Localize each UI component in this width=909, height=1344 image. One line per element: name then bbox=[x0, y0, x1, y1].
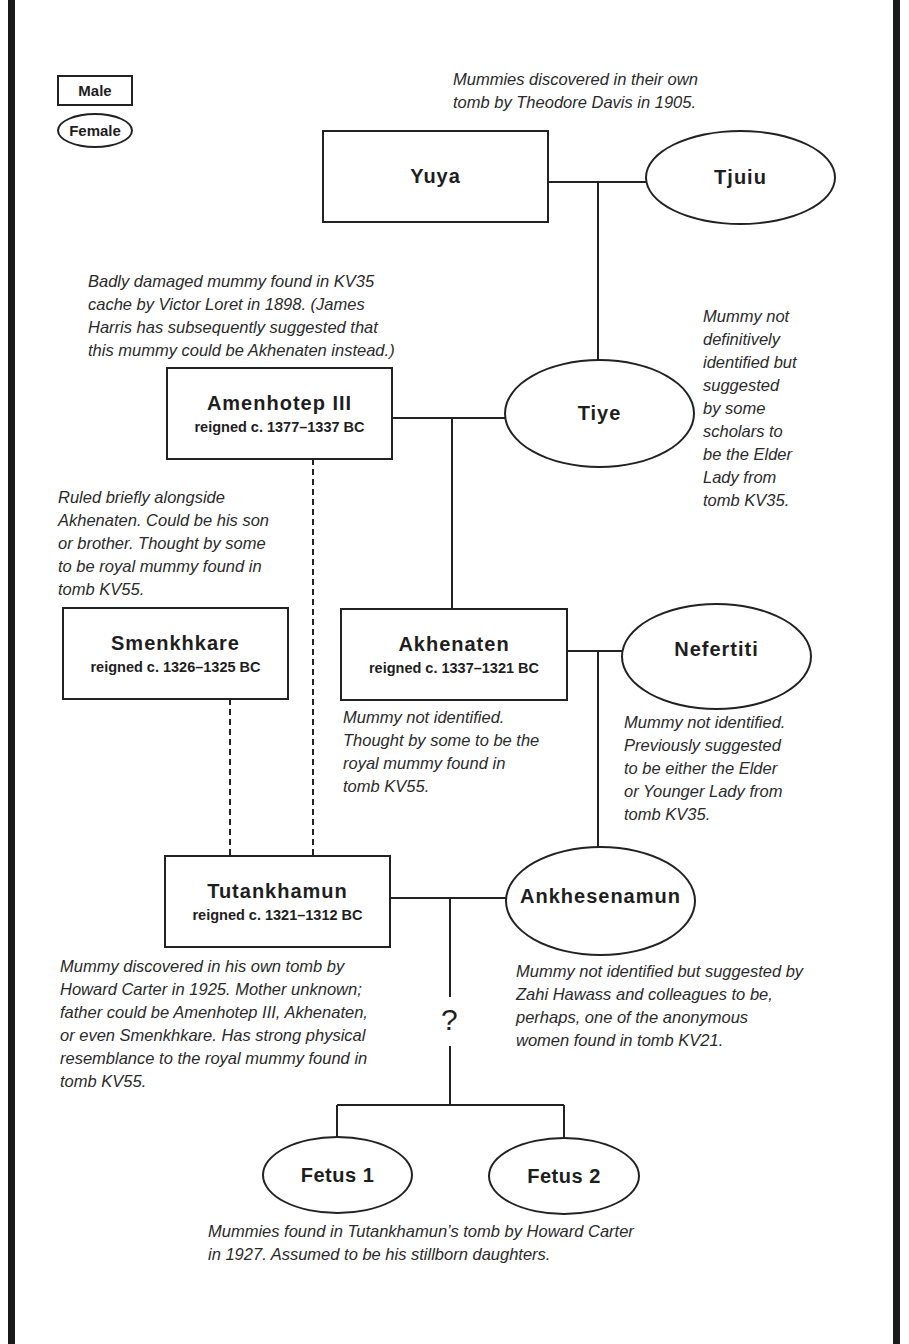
person-reign: reigned c. 1377–1337 BC bbox=[194, 419, 364, 435]
person-name: Tiye bbox=[578, 402, 622, 425]
person-akhenaten: Akhenaten reigned c. 1337–1321 BC bbox=[340, 608, 568, 701]
person-name: Tutankhamun bbox=[207, 880, 348, 903]
person-name: Amenhotep III bbox=[207, 392, 352, 415]
legend-female-label: Female bbox=[69, 122, 121, 139]
legend-male-box: Male bbox=[57, 75, 133, 106]
person-reign: reigned c. 1337–1321 BC bbox=[369, 660, 539, 676]
person-nefertiti: Nefertiti bbox=[621, 603, 812, 710]
person-smenkhkare: Smenkhkare reigned c. 1326–1325 BC bbox=[62, 607, 289, 700]
person-reign: reigned c. 1321–1312 BC bbox=[192, 907, 362, 923]
note-amenhotep-iii: Badly damaged mummy found in KV35 cache … bbox=[88, 270, 395, 362]
person-name: Tjuiu bbox=[714, 166, 767, 189]
person-tjuiu: Tjuiu bbox=[645, 130, 836, 225]
note-akhenaten: Mummy not identified. Thought by some to… bbox=[343, 706, 539, 798]
note-tutankhamun: Mummy discovered in his own tomb by Howa… bbox=[60, 955, 368, 1093]
person-tutankhamun: Tutankhamun reigned c. 1321–1312 BC bbox=[164, 855, 391, 948]
person-yuya: Yuya bbox=[322, 130, 549, 223]
note-smenkhkare: Ruled briefly alongside Akhenaten. Could… bbox=[58, 486, 269, 601]
person-ankhesenamun: Ankhesenamun bbox=[505, 846, 696, 956]
legend-female-ellipse: Female bbox=[57, 113, 133, 148]
uncertain-parentage-mark: ? bbox=[441, 1003, 458, 1037]
note-fetuses: Mummies found in Tutankhamun’s tomb by H… bbox=[208, 1220, 634, 1266]
person-name: Fetus 1 bbox=[301, 1164, 375, 1187]
note-yuya-tjuiu: Mummies discovered in their own tomb by … bbox=[453, 68, 698, 114]
person-name: Smenkhkare bbox=[111, 632, 240, 655]
legend-male-label: Male bbox=[78, 82, 111, 99]
person-tiye: Tiye bbox=[504, 359, 695, 468]
note-tiye: Mummy not definitively identified but su… bbox=[703, 305, 797, 512]
person-name: Fetus 2 bbox=[527, 1165, 601, 1188]
note-nefertiti: Mummy not identified. Previously suggest… bbox=[624, 711, 785, 826]
person-reign: reigned c. 1326–1325 BC bbox=[90, 659, 260, 675]
note-ankhesenamun: Mummy not identified but suggested by Za… bbox=[516, 960, 803, 1052]
person-name: Ankhesenamun bbox=[520, 885, 681, 908]
person-fetus-2: Fetus 2 bbox=[488, 1137, 640, 1215]
person-amenhotep-iii: Amenhotep III reigned c. 1377–1337 BC bbox=[166, 367, 393, 460]
person-name: Nefertiti bbox=[674, 638, 759, 661]
person-name: Akhenaten bbox=[398, 633, 509, 656]
person-name: Yuya bbox=[410, 165, 461, 188]
person-fetus-1: Fetus 1 bbox=[262, 1136, 413, 1214]
